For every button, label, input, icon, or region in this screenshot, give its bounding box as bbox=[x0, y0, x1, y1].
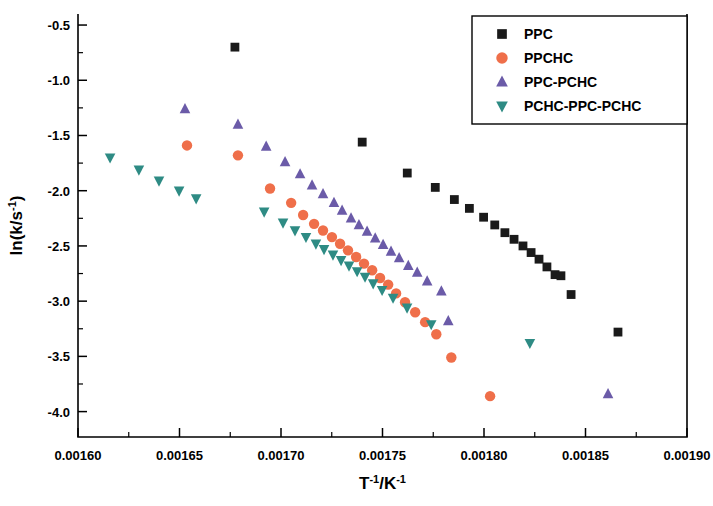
series-ppchc bbox=[182, 140, 495, 401]
data-point bbox=[557, 271, 566, 280]
legend-marker-circle-icon bbox=[496, 52, 507, 63]
legend-label: PCHC-PPC-PCHC bbox=[524, 98, 641, 114]
data-point bbox=[360, 273, 371, 283]
arrhenius-scatter-chart: 0.001600.001650.001700.001750.001800.001… bbox=[0, 0, 713, 506]
x-tick-label: 0.00190 bbox=[664, 448, 711, 463]
data-point bbox=[309, 219, 319, 229]
scatter-plot-figure: 0.001600.001650.001700.001750.001800.001… bbox=[0, 0, 713, 506]
data-point bbox=[510, 235, 519, 244]
legend-label: PPC-PCHC bbox=[524, 74, 597, 90]
data-point bbox=[328, 251, 339, 261]
legend-label: PPCHC bbox=[524, 50, 573, 66]
data-point bbox=[286, 198, 296, 208]
data-point bbox=[501, 228, 510, 237]
data-point bbox=[450, 195, 459, 204]
data-point bbox=[543, 263, 552, 272]
data-point bbox=[431, 183, 440, 192]
data-point bbox=[290, 226, 301, 236]
data-point bbox=[412, 266, 423, 276]
data-point bbox=[278, 219, 289, 229]
y-tick-label: -2.0 bbox=[48, 184, 70, 199]
y-tick-label: -3.0 bbox=[48, 294, 70, 309]
data-point bbox=[327, 232, 337, 242]
data-point bbox=[105, 153, 116, 163]
data-point bbox=[191, 194, 202, 204]
data-point bbox=[319, 245, 330, 255]
data-point bbox=[233, 118, 244, 128]
data-point bbox=[259, 207, 270, 217]
data-point bbox=[519, 242, 528, 251]
data-point bbox=[329, 197, 340, 207]
x-tick-label: 0.00175 bbox=[359, 448, 406, 463]
data-point bbox=[318, 188, 329, 198]
data-point bbox=[362, 226, 373, 236]
legend-label: PPC bbox=[524, 26, 553, 42]
x-tick-label: 0.00180 bbox=[461, 448, 508, 463]
data-point bbox=[280, 156, 291, 166]
data-point bbox=[377, 286, 388, 296]
data-point bbox=[174, 187, 185, 197]
data-point bbox=[307, 179, 318, 189]
data-point bbox=[535, 255, 544, 264]
data-point bbox=[346, 212, 357, 222]
data-point bbox=[301, 233, 312, 243]
data-point bbox=[182, 140, 192, 150]
data-point bbox=[485, 391, 495, 401]
data-point bbox=[403, 260, 414, 270]
data-point bbox=[525, 339, 536, 349]
data-point bbox=[368, 279, 379, 289]
data-point bbox=[344, 262, 355, 272]
data-point bbox=[335, 239, 345, 249]
data-point bbox=[614, 328, 623, 337]
y-tick-label: -0.5 bbox=[48, 18, 70, 33]
series-ppc-pchc bbox=[180, 103, 614, 398]
data-point bbox=[479, 213, 488, 222]
y-axis-title: ln(k/s-1) bbox=[6, 196, 26, 256]
data-point bbox=[446, 352, 456, 362]
data-point bbox=[298, 210, 308, 220]
data-point bbox=[490, 221, 499, 230]
data-point bbox=[410, 307, 420, 317]
y-tick-label: -3.5 bbox=[48, 349, 70, 364]
legend-marker-square-icon bbox=[497, 29, 507, 39]
data-point bbox=[134, 166, 145, 176]
data-point bbox=[154, 177, 165, 187]
data-point bbox=[436, 285, 447, 295]
data-point bbox=[431, 329, 441, 339]
data-point bbox=[180, 103, 191, 113]
data-point bbox=[343, 245, 353, 255]
data-point bbox=[351, 252, 361, 262]
data-point bbox=[527, 248, 536, 257]
data-point bbox=[261, 141, 272, 151]
data-point bbox=[233, 150, 243, 160]
x-tick-label: 0.00185 bbox=[562, 448, 609, 463]
data-point bbox=[394, 252, 405, 262]
data-point bbox=[311, 240, 322, 250]
y-tick-label: -2.5 bbox=[48, 239, 70, 254]
x-axis-title: T-1/K-1 bbox=[359, 473, 406, 493]
y-tick-label: -4.0 bbox=[48, 405, 70, 420]
y-tick-label: -1.0 bbox=[48, 73, 70, 88]
data-point bbox=[422, 275, 433, 285]
data-point bbox=[403, 169, 412, 178]
data-point bbox=[336, 256, 347, 266]
data-point bbox=[465, 204, 474, 213]
data-point bbox=[231, 43, 240, 52]
series-pchc-ppc-pchc bbox=[105, 153, 535, 349]
data-point bbox=[352, 267, 363, 277]
data-point bbox=[318, 225, 328, 235]
data-point bbox=[388, 294, 399, 304]
data-point bbox=[603, 388, 614, 398]
data-point bbox=[567, 290, 576, 299]
data-point bbox=[443, 315, 454, 325]
chart-legend: PPCPPCHCPPC-PCHCPCHC-PPC-PCHC bbox=[472, 16, 687, 124]
data-point bbox=[370, 232, 381, 242]
x-tick-label: 0.00165 bbox=[156, 448, 203, 463]
data-point bbox=[265, 183, 275, 193]
x-tick-label: 0.00170 bbox=[258, 448, 305, 463]
data-point bbox=[358, 138, 367, 147]
data-point bbox=[295, 168, 306, 178]
x-tick-label: 0.00160 bbox=[55, 448, 102, 463]
y-tick-label: -1.5 bbox=[48, 128, 70, 143]
